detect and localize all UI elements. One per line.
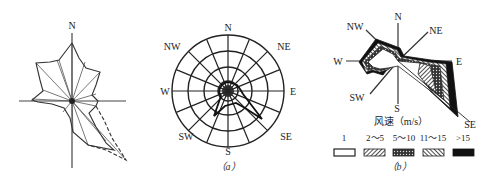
label-se: SE bbox=[280, 131, 292, 142]
label-e: E bbox=[456, 56, 462, 67]
axis-title: 风速（m/s） bbox=[374, 116, 428, 127]
caption-a: （a） bbox=[216, 161, 241, 172]
label-w: W bbox=[333, 56, 343, 67]
legend-label-2-5: 2～5 bbox=[366, 133, 385, 143]
label-n: N bbox=[394, 11, 401, 22]
label-e: E bbox=[290, 86, 296, 97]
legend-swatch-2-5 bbox=[364, 149, 385, 156]
legend-swatch-1 bbox=[334, 149, 355, 156]
legend-label-5-10: 5～10 bbox=[393, 133, 416, 143]
wind-rose-left: N bbox=[19, 20, 126, 168]
north-label: N bbox=[68, 20, 75, 31]
label-sw: SW bbox=[350, 92, 366, 103]
label-nw: NW bbox=[347, 21, 364, 32]
series-dashed-outline bbox=[88, 106, 126, 160]
figure-canvas: N bbox=[0, 0, 490, 187]
label-sw: SW bbox=[179, 131, 195, 142]
caption-b: （b） bbox=[387, 161, 412, 172]
center-hub bbox=[69, 98, 75, 104]
label-w: W bbox=[160, 86, 170, 97]
legend-label-over-15: >15 bbox=[456, 133, 471, 143]
legend-label-11-15: 11～15 bbox=[420, 133, 447, 143]
label-ne: NE bbox=[277, 41, 290, 52]
legend-swatch-over-15 bbox=[453, 149, 474, 156]
legend-label-1: 1 bbox=[342, 133, 347, 143]
legend-swatch-5-10 bbox=[393, 149, 414, 156]
legend-swatch-11-15 bbox=[423, 149, 444, 156]
legend: 1 2～5 5～10 11～15 >15 bbox=[334, 133, 474, 156]
center-hub bbox=[222, 85, 234, 97]
wind-rose-b: N NE E SE S SW W NW 风速（m/s） 1 2～5 5～10 1… bbox=[333, 11, 476, 172]
label-s: S bbox=[225, 146, 231, 157]
label-se: SE bbox=[464, 119, 476, 130]
label-nw: NW bbox=[164, 41, 181, 52]
wind-rose-a: N NE E SE S SW W NW （a） bbox=[160, 22, 296, 172]
label-n: N bbox=[224, 22, 231, 33]
label-s: S bbox=[394, 103, 400, 114]
label-ne: NE bbox=[429, 25, 442, 36]
